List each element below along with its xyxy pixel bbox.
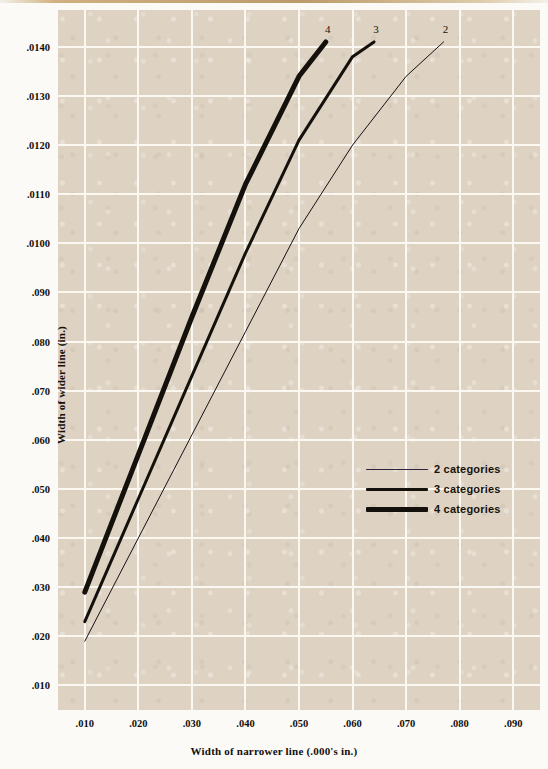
y-axis-tick-labels: .0140.0130.0120.0110.0100.090.080.070.06… xyxy=(0,0,54,769)
y-tick-label: .060 xyxy=(0,434,50,445)
curves-layer xyxy=(58,10,540,710)
plot-area xyxy=(58,10,540,710)
y-tick-label: .090 xyxy=(0,287,50,298)
legend-label: 2 categories xyxy=(434,463,501,475)
y-tick-label: .0140 xyxy=(0,41,50,52)
legend-label: 3 categories xyxy=(434,483,501,495)
y-tick-label: .030 xyxy=(0,582,50,593)
y-tick-label: .050 xyxy=(0,483,50,494)
curve-3-categories xyxy=(85,42,374,622)
curve-2-categories xyxy=(85,42,444,641)
legend-line-swatch xyxy=(366,507,428,512)
legend-item: 2 categories xyxy=(366,459,526,479)
y-tick-label: .020 xyxy=(0,631,50,642)
x-tick-label: .070 xyxy=(397,718,415,729)
y-tick-label: .010 xyxy=(0,680,50,691)
legend-label: 4 categories xyxy=(434,503,501,515)
legend-item: 4 categories xyxy=(366,499,526,519)
y-tick-label: .040 xyxy=(0,533,50,544)
x-tick-label: .090 xyxy=(504,718,522,729)
y-tick-label: .0120 xyxy=(0,140,50,151)
legend-line-swatch xyxy=(366,488,428,491)
chart-page: .0140.0130.0120.0110.0100.090.080.070.06… xyxy=(0,0,548,769)
chart-legend: 2 categories3 categories4 categories xyxy=(366,459,526,519)
curve-end-label-3: 3 xyxy=(373,23,379,35)
x-tick-label: .040 xyxy=(236,718,254,729)
x-tick-label: .050 xyxy=(290,718,308,729)
legend-item: 3 categories xyxy=(366,479,526,499)
y-tick-label: .0100 xyxy=(0,238,50,249)
y-tick-label: .070 xyxy=(0,385,50,396)
y-tick-label: .0110 xyxy=(0,189,50,200)
x-tick-label: .010 xyxy=(76,718,94,729)
curve-end-label-2: 2 xyxy=(443,23,449,35)
x-tick-label: .060 xyxy=(343,718,361,729)
legend-line-swatch xyxy=(366,469,428,470)
x-tick-label: .030 xyxy=(183,718,201,729)
x-tick-label: .020 xyxy=(129,718,147,729)
curve-4-categories xyxy=(85,42,326,592)
x-tick-label: .080 xyxy=(450,718,468,729)
y-axis-title: Width of wider line (in.) xyxy=(55,326,67,444)
x-axis-title: Width of narrower line (.000's in.) xyxy=(0,745,548,757)
y-tick-label: .0130 xyxy=(0,90,50,101)
y-tick-label: .080 xyxy=(0,336,50,347)
curve-end-label-4: 4 xyxy=(325,23,331,35)
